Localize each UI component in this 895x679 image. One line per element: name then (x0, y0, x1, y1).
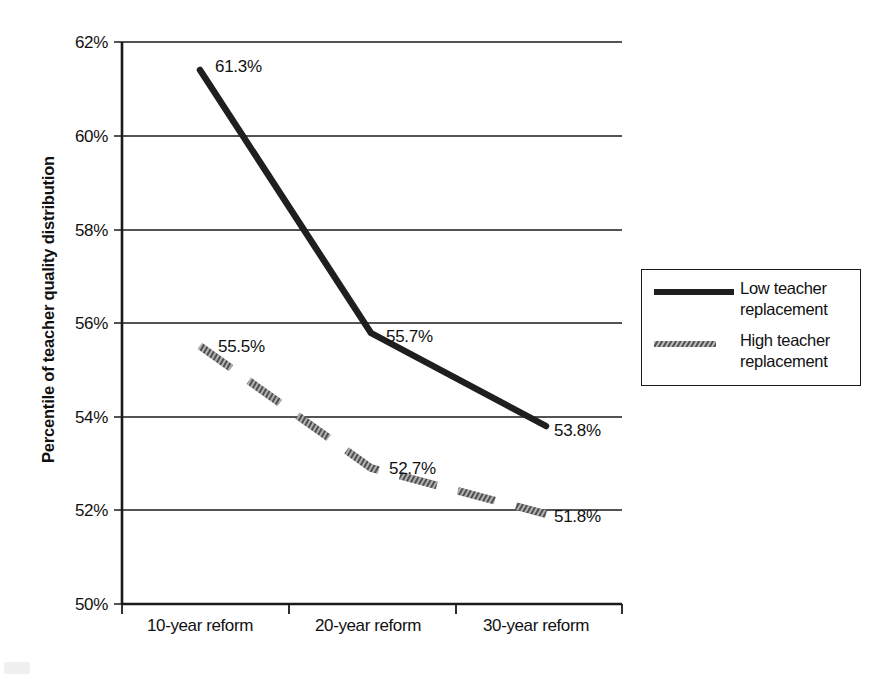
chart-figure: Percentile of teacher quality distributi… (0, 0, 895, 679)
legend-item-low-teacher-replacement[interactable]: Low teacher replacement (642, 278, 860, 330)
legend-item-high-teacher-replacement[interactable]: High teacher replacement (642, 330, 860, 382)
legend: Low teacher replacement High teacher rep… (641, 269, 861, 386)
series-line-low-teacher-replacement (200, 70, 546, 426)
scan-artifact (4, 662, 30, 674)
data-label-low-30-year: 53.8% (554, 421, 601, 441)
gridlines (122, 42, 622, 510)
data-label-high-30-year: 51.8% (554, 507, 601, 527)
data-label-low-20-year: 55.7% (386, 327, 433, 347)
legend-label-low-line2: replacement (740, 299, 860, 320)
series-line-high-teacher-replacement-texture (200, 346, 546, 514)
data-label-high-20-year: 52.7% (389, 459, 436, 479)
legend-label-low-teacher-replacement: Low teacher replacement (740, 278, 860, 320)
series-line-high-teacher-replacement (200, 346, 546, 514)
legend-swatch-solid-line (653, 287, 735, 297)
legend-swatch-dashed-line (653, 339, 735, 349)
legend-label-high-line2: replacement (740, 351, 860, 372)
legend-label-low-line1: Low teacher (740, 279, 827, 297)
data-label-low-10-year: 61.3% (215, 57, 262, 77)
legend-label-high-line1: High teacher (740, 331, 830, 349)
data-label-high-10-year: 55.5% (218, 337, 265, 357)
x-axis-ticks (122, 604, 622, 614)
legend-label-high-teacher-replacement: High teacher replacement (740, 330, 860, 372)
